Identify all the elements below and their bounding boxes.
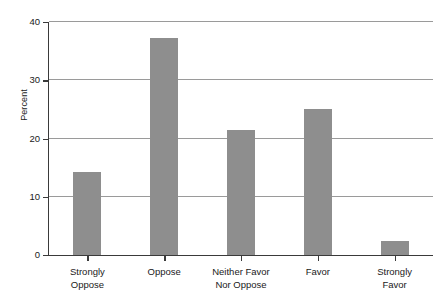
- x-tick-mark: [318, 255, 319, 261]
- x-tick-label: Favor: [273, 266, 362, 279]
- y-tick-label: 10: [10, 190, 40, 203]
- bar: [227, 130, 255, 255]
- y-tick-mark: [43, 80, 49, 81]
- x-tick-label: Neither Favor Nor Oppose: [197, 266, 286, 291]
- x-tick-label: Strongly Oppose: [43, 266, 132, 291]
- bar: [304, 109, 332, 255]
- y-tick-mark: [43, 22, 49, 23]
- bar: [73, 172, 101, 255]
- y-tick-label: 40: [10, 15, 40, 28]
- y-tick-mark: [43, 255, 49, 256]
- x-tick-label: Oppose: [120, 266, 209, 279]
- gridline: [49, 21, 433, 22]
- y-tick-label: 30: [10, 73, 40, 86]
- x-tick-label: Strongly Favor: [350, 266, 439, 291]
- x-tick-mark: [395, 255, 396, 261]
- y-tick-mark: [43, 139, 49, 140]
- gridline: [49, 79, 433, 80]
- x-tick-mark: [164, 255, 165, 261]
- bar: [381, 241, 409, 255]
- y-tick-label: 0: [10, 248, 40, 261]
- y-tick-mark: [43, 197, 49, 198]
- bar-chart: Percent 010203040 Strongly OpposeOpposeN…: [0, 0, 446, 301]
- bar: [150, 38, 178, 255]
- x-tick-mark: [87, 255, 88, 261]
- plot-area: 010203040 Strongly OpposeOpposeNeither F…: [48, 22, 433, 256]
- y-tick-label: 20: [10, 132, 40, 145]
- x-tick-mark: [241, 255, 242, 261]
